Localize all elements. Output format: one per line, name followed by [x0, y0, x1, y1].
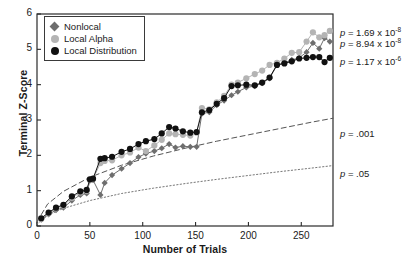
- legend-item-local-alpha: Local Alpha: [49, 33, 137, 44]
- data-point-circle: [143, 138, 149, 144]
- y-tick-label: 6: [10, 7, 32, 18]
- data-point-circle: [310, 29, 316, 35]
- x-tick-label: 100: [123, 230, 163, 241]
- y-tick-label: 2: [10, 148, 32, 159]
- diamond-marker-icon: [49, 21, 62, 32]
- data-point-circle: [60, 202, 66, 208]
- data-point-circle: [90, 176, 96, 182]
- data-point-circle: [69, 193, 75, 199]
- data-point-circle: [172, 131, 178, 137]
- data-point-circle: [296, 55, 302, 61]
- data-point-diamond: [327, 38, 333, 44]
- x-tick-label: 250: [281, 230, 321, 241]
- p-value-body: = 8.94 x 10: [345, 38, 395, 49]
- annotation-p-001: p = .001: [340, 128, 375, 139]
- data-point-circle: [135, 141, 141, 147]
- data-point-circle: [327, 55, 333, 61]
- data-point-diamond: [166, 141, 172, 147]
- data-point-diamond: [127, 160, 133, 166]
- data-point-circle: [84, 187, 90, 193]
- data-point-circle: [303, 38, 309, 44]
- data-point-circle: [194, 129, 200, 135]
- annotation-p-05: p = .05: [340, 168, 369, 179]
- data-point-circle: [243, 82, 249, 88]
- data-point-diamond: [194, 144, 200, 150]
- data-point-circle: [77, 188, 83, 194]
- y-tick-label: 3: [10, 113, 32, 124]
- data-point-circle: [166, 124, 172, 130]
- y-tick-label: 1: [10, 184, 32, 195]
- x-tick-label: 0: [17, 230, 57, 241]
- data-point-circle: [274, 62, 280, 68]
- data-point-circle: [166, 130, 172, 136]
- data-point-diamond: [159, 145, 165, 151]
- p-value-body: = 1.17 x 10: [345, 56, 395, 67]
- data-point-circle: [296, 49, 302, 55]
- data-point-circle: [151, 136, 157, 142]
- data-point-circle: [235, 82, 241, 88]
- data-point-circle: [259, 79, 265, 85]
- legend-label: Local Distribution: [64, 45, 137, 56]
- circle-light-marker-icon: [49, 33, 62, 44]
- data-point-circle: [252, 71, 258, 77]
- data-point-circle: [243, 75, 249, 81]
- y-tick-label: 4: [10, 78, 32, 89]
- data-point-circle: [266, 62, 272, 68]
- x-tick-label: 50: [70, 230, 110, 241]
- p-value-body: = .001: [345, 128, 374, 139]
- data-point-diamond: [228, 92, 234, 98]
- data-point-diamond: [235, 89, 241, 95]
- data-point-circle: [151, 142, 157, 148]
- data-point-diamond: [151, 148, 157, 154]
- data-point-circle: [289, 50, 295, 56]
- data-point-circle: [327, 28, 333, 34]
- p-value-body: = .05: [345, 168, 369, 179]
- circle-dark-marker-icon: [49, 45, 62, 56]
- chart-legend: Nonlocal Local Alpha Local Distribution: [44, 16, 145, 61]
- data-point-circle: [259, 67, 265, 73]
- data-point-diamond: [97, 192, 103, 198]
- x-tick-label: 200: [228, 230, 268, 241]
- data-point-circle: [321, 59, 327, 65]
- data-point-circle: [159, 130, 165, 136]
- data-point-circle: [187, 130, 193, 136]
- data-point-circle: [266, 75, 272, 81]
- data-point-circle: [310, 54, 316, 60]
- data-point-circle: [228, 83, 234, 89]
- data-point-diamond: [135, 154, 141, 160]
- data-point-diamond: [118, 166, 124, 172]
- p-value-exponent: -8: [395, 37, 401, 44]
- data-point-circle: [221, 95, 227, 101]
- data-point-circle: [46, 209, 52, 215]
- x-tick-label: 150: [176, 230, 216, 241]
- legend-item-nonlocal: Nonlocal: [49, 21, 137, 32]
- data-point-circle: [127, 146, 133, 152]
- data-point-circle: [53, 205, 59, 211]
- data-point-circle: [199, 109, 205, 115]
- data-point-circle: [102, 155, 108, 161]
- data-point-circle: [281, 60, 287, 66]
- y-tick-label: 0: [10, 219, 32, 230]
- annotation-p-nonlocal: p = 8.94 x 10-8: [340, 37, 401, 49]
- legend-item-local-distribution: Local Distribution: [49, 45, 137, 56]
- data-point-circle: [316, 54, 322, 60]
- data-point-circle: [289, 58, 295, 64]
- data-point-diamond: [187, 144, 193, 150]
- data-point-circle: [206, 107, 212, 113]
- p-value-exponent: -6: [395, 55, 401, 62]
- data-point-circle: [38, 215, 44, 221]
- data-point-circle: [143, 148, 149, 154]
- data-point-circle: [252, 82, 258, 88]
- data-point-circle: [303, 55, 309, 61]
- legend-label: Nonlocal: [64, 21, 101, 32]
- p-value-exponent: -8: [395, 26, 401, 33]
- data-point-circle: [172, 125, 178, 131]
- data-point-circle: [118, 149, 124, 155]
- data-point-circle: [159, 137, 165, 143]
- data-point-circle: [109, 154, 115, 160]
- chart-figure: Terminal Z-Score Number of Trials Nonloc…: [0, 0, 405, 267]
- data-point-circle: [214, 101, 220, 107]
- y-tick-label: 5: [10, 42, 32, 53]
- data-point-circle: [180, 128, 186, 134]
- legend-label: Local Alpha: [64, 33, 113, 44]
